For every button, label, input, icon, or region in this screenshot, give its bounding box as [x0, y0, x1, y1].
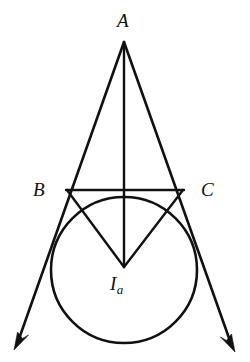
- vertex-label-a: A: [117, 11, 129, 30]
- vertex-label-c: C: [201, 180, 214, 199]
- vertex-label-b: B: [33, 180, 45, 199]
- segment-c-to-excenter: [124, 190, 183, 267]
- excircle-diagram: A B C Ia: [0, 0, 250, 362]
- excenter-letter: I: [110, 273, 116, 294]
- vertex-label-excenter: Ia: [110, 274, 123, 296]
- excenter-subscript: a: [117, 282, 124, 297]
